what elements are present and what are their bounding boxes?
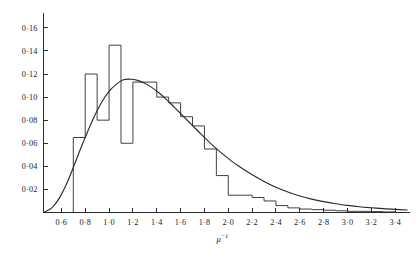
x-tick-label: 1·8 — [199, 218, 211, 227]
x-tick-label: 3·2 — [366, 218, 378, 227]
x-tick-label: 2·6 — [294, 218, 306, 227]
x-tick-label: 0·6 — [56, 218, 68, 227]
y-tick-label: 0·02 — [22, 185, 38, 194]
y-tick-label: 0·06 — [22, 139, 38, 148]
x-axis-tick-labels: 0·60·81·01·21·41·61·82·02·22·42·62·83·03… — [56, 218, 401, 227]
figure-caption — [26, 251, 406, 258]
x-tick-label: 1·2 — [127, 218, 139, 227]
x-tick-label: 2·2 — [246, 218, 258, 227]
axes-group — [44, 13, 410, 213]
x-tick-label: 1·0 — [103, 218, 115, 227]
x-tick-label: 2·4 — [270, 218, 282, 227]
x-tick-label: 2·0 — [223, 218, 235, 227]
x-tick-label: 1·4 — [151, 218, 163, 227]
y-tick-label: 0·14 — [22, 47, 38, 56]
chart-canvas: 0·020·040·060·080·100·120·140·16 0·60·81… — [0, 0, 418, 258]
y-tick-label: 0·04 — [22, 162, 38, 171]
y-tick-label: 0·16 — [22, 24, 38, 33]
x-tick-label: 3·0 — [342, 218, 354, 227]
y-axis-tick-labels: 0·020·040·060·080·100·120·140·16 — [22, 24, 38, 195]
x-tick-label: 1·6 — [175, 218, 187, 227]
histogram-step-outline — [73, 45, 395, 212]
x-axis-title: μ−1 — [216, 232, 229, 243]
y-tick-label: 0·10 — [22, 93, 38, 102]
x-tick-label: 3·4 — [389, 218, 401, 227]
x-tick-label: 2·8 — [318, 218, 330, 227]
fitted-distribution-curve — [45, 79, 407, 212]
y-axis-ticks — [44, 28, 49, 190]
figure-container: 0·020·040·060·080·100·120·140·16 0·60·81… — [0, 0, 418, 258]
y-tick-label: 0·08 — [22, 116, 38, 125]
y-tick-label: 0·12 — [22, 70, 38, 79]
x-tick-label: 0·8 — [79, 218, 91, 227]
x-axis-ticks — [61, 208, 395, 213]
